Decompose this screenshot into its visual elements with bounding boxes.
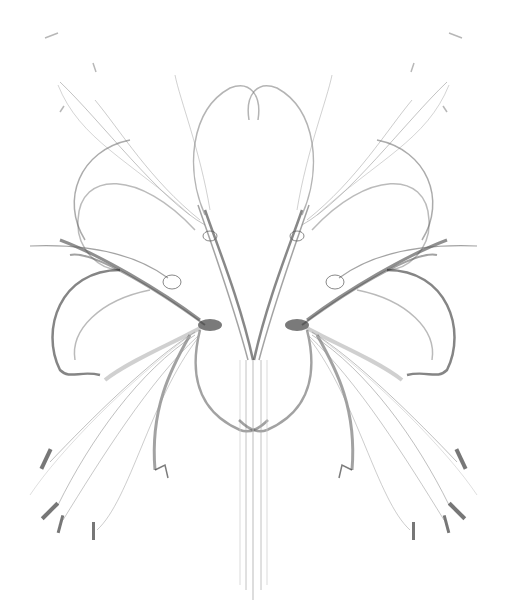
- xray-lily-artwork: [0, 0, 507, 612]
- artwork-canvas: X-ray style symmetric composition of spi…: [0, 0, 507, 612]
- lily-right-half: [239, 33, 477, 590]
- lily-left-half: [30, 33, 268, 590]
